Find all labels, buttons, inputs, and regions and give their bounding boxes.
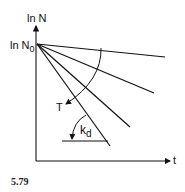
diagram-canvas	[0, 0, 185, 192]
figure-number: 5.79	[11, 176, 29, 187]
y-axis-label: ln N	[27, 13, 47, 24]
y-intercept-label: ln N0	[10, 40, 35, 54]
temperature-arrow-arc	[66, 48, 101, 104]
rate-constant-label: kd	[80, 124, 92, 139]
x-axis-label: t	[173, 155, 176, 166]
temperature-label: T	[56, 102, 63, 113]
decay-line-3	[37, 44, 130, 127]
